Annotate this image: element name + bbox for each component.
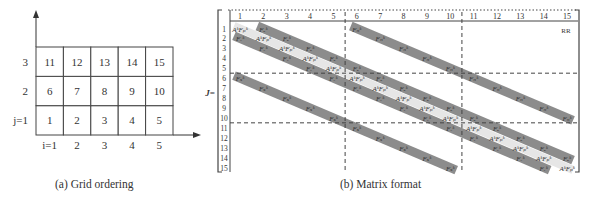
column-label: 8 [402, 12, 406, 21]
west-diagonal-entry-label: Fᵥᵏ [422, 115, 432, 123]
main-diagonal-entry-label: AᵏFₚᵏ [395, 95, 412, 103]
main-diagonal-entry-label: AᵏFₚᵏ [512, 145, 529, 153]
row-label: 15 [220, 164, 228, 173]
west-diagonal-entry-label: Fᵥᵏ [398, 105, 408, 113]
east-diagonal-entry-label: Fₑᵏ [445, 105, 455, 113]
north-diagonal-entry-label: Fₙᵏ [421, 55, 432, 63]
row-label: 4 [222, 54, 226, 63]
south-diagonal-entry-label: Fₛᵏ [445, 165, 456, 173]
column-label: 4 [308, 12, 312, 21]
north-diagonal-entry-label: Fₙᵏ [445, 65, 456, 73]
east-diagonal-entry-label: Fₑᵏ [398, 85, 408, 93]
west-diagonal-entry-label: Fᵥᵏ [468, 135, 478, 143]
south-diagonal-entry-label: Fₛᵏ [258, 85, 269, 93]
main-diagonal-entry-label: AᵏFₚᵏ [418, 105, 435, 113]
column-label: 7 [378, 12, 382, 21]
matrix-format-diagram: FₑᵏFₑᵏFₑᵏFₑᵏFₑᵏFₑᵏFₑᵏFₑᵏFₑᵏFₑᵏFₑᵏFₑᵏFₑᵏF… [0, 0, 589, 204]
column-label: 13 [516, 12, 524, 21]
caption-grid-ordering: (a) Grid ordering [55, 178, 134, 190]
south-diagonal-entry-label: Fₛᵏ [398, 145, 409, 153]
east-diagonal-entry-label: Fₑᵏ [352, 65, 362, 73]
figure: 123456789101112131415i=12345j=123 FₑᵏFₑᵏ… [0, 0, 589, 204]
row-label: 7 [222, 84, 226, 93]
main-diagonal-entry-label: AᵏFₚᵏ [535, 155, 552, 163]
west-diagonal-entry-label: Fᵥᵏ [375, 95, 385, 103]
main-diagonal-entry-label: AᵏFₚᵏ [372, 85, 389, 93]
main-diagonal-entry-label: AᵏFₚᵏ [442, 115, 459, 123]
row-label: 8 [222, 94, 226, 103]
north-diagonal-entry-label: Fₙᵏ [398, 45, 409, 53]
west-diagonal-entry-label: Fᵥᵏ [515, 155, 525, 163]
north-diagonal-entry-label: Fₙᵏ [468, 75, 479, 83]
column-label: 6 [355, 12, 359, 21]
east-diagonal-entry-label: Fₑᵏ [469, 115, 479, 123]
south-diagonal-entry-label: Fₛᵏ [305, 105, 316, 113]
east-diagonal-entry-label: Fₑᵏ [258, 26, 268, 34]
east-diagonal-entry-label: Fₑᵏ [282, 35, 292, 43]
west-diagonal-entry-label: Fᵥᵏ [305, 65, 315, 73]
column-label: 14 [540, 12, 548, 21]
south-diagonal-entry-label: Fₛᵏ [375, 135, 386, 143]
row-label: 14 [220, 154, 228, 163]
main-diagonal-entry-label: AᵏFₚᵏ [301, 55, 318, 63]
column-label: 15 [563, 12, 571, 21]
west-diagonal-entry-label: Fᵥᵏ [282, 55, 292, 63]
east-diagonal-entry-label: Fₑᵏ [515, 135, 525, 143]
column-label: 9 [425, 12, 429, 21]
row-label: 12 [220, 134, 228, 143]
main-diagonal-entry-label: AᵏFₚᵏ [255, 35, 272, 43]
east-diagonal-entry-label: Fₑᵏ [539, 145, 549, 153]
row-label: 3 [222, 44, 226, 53]
south-diagonal-entry-label: Fₛᵏ [351, 125, 362, 133]
main-diagonal-entry-label: AᵏFₚᵏ [278, 45, 295, 53]
west-diagonal-entry-label: Fᵥᵏ [258, 45, 268, 53]
column-label: 11 [470, 12, 478, 21]
west-diagonal-band [234, 36, 550, 170]
east-diagonal-entry-label: Fₑᵏ [328, 55, 338, 63]
right-bracket [575, 10, 579, 172]
main-diagonal-entry-label: AᵏFₚᵏ [488, 135, 505, 143]
west-diagonal-entry-label: Fᵥᵏ [492, 145, 502, 153]
north-diagonal-entry-label: Fₙᵏ [491, 85, 502, 93]
north-diagonal-entry-label: Fₙᵏ [561, 115, 572, 123]
column-label: 2 [261, 12, 265, 21]
east-diagonal-entry-label: Fₑᵏ [492, 125, 502, 133]
north-diagonal-entry-label: Fₙᵏ [351, 26, 362, 34]
main-diagonal-entry-label: AᵏFₚᵏ [348, 75, 365, 83]
north-diagonal-entry-label: Fₙᵏ [538, 105, 549, 113]
column-label: 1 [238, 12, 242, 21]
row-label: 5 [222, 64, 226, 73]
column-label: 5 [331, 12, 335, 21]
column-label: 12 [493, 12, 501, 21]
row-label: 11 [220, 124, 227, 133]
south-diagonal-entry-label: Fₛᵏ [422, 155, 433, 163]
south-diagonal-entry-label: Fₛᵏ [235, 75, 246, 83]
main-diagonal-entry-label: AᵏFₚᵏ [231, 26, 248, 34]
north-diagonal-entry-label: Fₙᵏ [515, 95, 526, 103]
corner-label: RR [561, 27, 571, 35]
main-diagonal-entry-label: AᵏFₚᵏ [325, 65, 342, 73]
main-diagonal-entry-label: AᵏFₚᵏ [465, 125, 482, 133]
row-label: 1 [222, 25, 226, 34]
south-diagonal-entry-label: Fₛᵏ [281, 95, 292, 103]
row-label: 9 [222, 104, 226, 113]
caption-matrix-format: (b) Matrix format [340, 178, 421, 190]
main-diagonal-entry-label: AᵏFₚᵏ [558, 165, 575, 173]
row-label: 2 [222, 34, 226, 43]
east-diagonal-band [257, 26, 573, 160]
east-diagonal-entry-label: Fₑᵏ [305, 45, 315, 53]
west-diagonal-entry-label: Fᵥᵏ [352, 85, 362, 93]
east-diagonal-entry-label: Fₑᵏ [375, 75, 385, 83]
matrix-label: J= [204, 88, 215, 98]
east-diagonal-entry-label: Fₑᵏ [562, 155, 572, 163]
west-diagonal-entry-label: Fᵥᵏ [445, 125, 455, 133]
west-diagonal-entry-label: Fᵥᵏ [539, 165, 549, 173]
column-label: 10 [446, 12, 454, 21]
row-label: 13 [220, 144, 228, 153]
west-diagonal-entry-label: Fᵥᵏ [235, 35, 245, 43]
north-diagonal-entry-label: Fₙᵏ [375, 35, 386, 43]
east-diagonal-entry-label: Fₑᵏ [422, 95, 432, 103]
south-diagonal-entry-label: Fₛᵏ [328, 115, 339, 123]
west-diagonal-entry-label: Fᵥᵏ [328, 75, 338, 83]
column-label: 3 [285, 12, 289, 21]
